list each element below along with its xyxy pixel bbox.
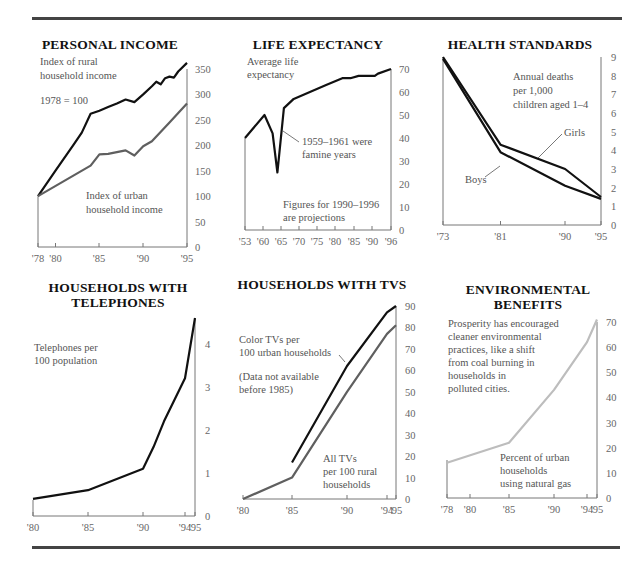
y-tick-label: 0 xyxy=(399,225,404,236)
y-tick-label: 40 xyxy=(606,392,617,403)
chart-annotation: households xyxy=(500,465,547,476)
y-tick-label: 300 xyxy=(195,89,211,100)
y-tick-label: 60 xyxy=(606,342,617,353)
households-with-telephones-title: HOUSEHOLDS WITHTELEPHONES xyxy=(49,280,188,310)
chart-annotation: Annual deaths xyxy=(513,71,573,82)
y-tick-label: 10 xyxy=(399,202,410,213)
health-standards-chart: HEALTH STANDARDS'73'81'90'950123456789An… xyxy=(437,37,617,242)
y-tick-label: 3 xyxy=(205,382,210,393)
x-tick-label: '73 xyxy=(437,231,449,242)
chart-annotation: practices, like a shift xyxy=(448,344,535,355)
chart-annotation: Percent of urban xyxy=(500,452,570,463)
y-tick-label: 90 xyxy=(405,301,416,312)
chart-annotation: Figures for 1990–1996 xyxy=(283,199,379,210)
y-tick-label: 6 xyxy=(611,108,616,119)
personal-income-chart: PERSONAL INCOME'78'80'85'90'950501001502… xyxy=(32,37,211,264)
y-tick-label: 70 xyxy=(399,64,410,75)
personal-income-title: PERSONAL INCOME xyxy=(42,37,178,52)
x-tick-label: '78 xyxy=(441,504,453,515)
chart-annotation: Index of rural xyxy=(40,56,98,67)
chart-annotation: are projections xyxy=(283,212,345,223)
x-tick-label: '80 xyxy=(464,504,476,515)
y-tick-label: 1 xyxy=(611,201,616,212)
y-tick-label: 40 xyxy=(405,408,416,419)
leader-line xyxy=(339,355,345,362)
chart-annotation: Girls xyxy=(564,127,585,138)
x-tick-label: '80 xyxy=(237,505,249,516)
chart-annotation: polluted cities. xyxy=(448,383,510,394)
chart-annotation: Color TVs per xyxy=(239,334,300,345)
chart-annotation: 1959–1961 were xyxy=(302,136,373,147)
x-tick-label: '70 xyxy=(293,236,305,247)
life-expectancy-chart: LIFE EXPECTANCY'53'60'65'70'75'80'85'90'… xyxy=(239,37,410,247)
chart-annotation: before 1985) xyxy=(239,384,293,396)
leader-line xyxy=(283,131,299,142)
y-tick-label: 50 xyxy=(606,367,617,378)
life-expectancy-title: LIFE EXPECTANCY xyxy=(253,37,384,52)
y-tick-label: 9 xyxy=(611,52,616,63)
chart-annotation: expectancy xyxy=(247,69,295,80)
chart-annotation: from coal burning in xyxy=(448,357,535,368)
x-tick-label: '95 xyxy=(189,522,201,533)
x-tick-label: '80 xyxy=(329,236,341,247)
x-tick-label: '75 xyxy=(311,236,323,247)
x-tick-label: '90 xyxy=(137,522,149,533)
leader-line xyxy=(485,166,500,177)
y-tick-label: 40 xyxy=(399,133,410,144)
x-tick-label: '85 xyxy=(93,253,105,264)
y-tick-label: 60 xyxy=(405,365,416,376)
y-tick-label: 10 xyxy=(405,473,416,484)
y-tick-label: 70 xyxy=(606,317,617,328)
x-tick-label: '95 xyxy=(181,253,193,264)
chart-annotation: Boys xyxy=(465,174,487,185)
x-tick-label: '95 xyxy=(595,231,607,242)
chart-annotation: household income xyxy=(86,204,163,215)
chart-annotation: households xyxy=(323,479,370,490)
y-tick-label: 2 xyxy=(611,183,616,194)
y-tick-label: 50 xyxy=(399,110,410,121)
y-tick-label: 20 xyxy=(405,451,416,462)
y-tick-label: 30 xyxy=(606,418,617,429)
x-tick-label: '85 xyxy=(286,505,298,516)
chart-annotation: household income xyxy=(40,70,117,81)
y-tick-label: 30 xyxy=(399,156,410,167)
chart-annotation: Prosperity has encouraged xyxy=(448,318,560,329)
households-with-tvs-chart: HOUSEHOLDS WITH TVS'80'85'90'94'95010203… xyxy=(237,277,416,516)
chart-annotation: 1978 = 100 xyxy=(40,95,88,106)
x-tick-label: '90 xyxy=(341,505,353,516)
x-tick-label: '95 xyxy=(591,504,603,515)
chart-annotation: All TVs xyxy=(323,453,357,464)
y-tick-label: 4 xyxy=(205,339,211,350)
personal-income-series-1 xyxy=(38,104,187,197)
households-with-tvs-title: HOUSEHOLDS WITH TVS xyxy=(237,277,406,292)
y-tick-label: 0 xyxy=(195,242,200,253)
y-tick-label: 1 xyxy=(205,468,210,479)
y-tick-label: 250 xyxy=(195,115,211,126)
x-tick-label: '80 xyxy=(49,253,61,264)
y-tick-label: 60 xyxy=(399,87,410,98)
y-tick-label: 4 xyxy=(611,145,617,156)
x-tick-label: '90 xyxy=(366,236,378,247)
x-tick-label: '85 xyxy=(503,504,515,515)
y-tick-label: 30 xyxy=(405,430,416,441)
chart-annotation: children aged 1–4 xyxy=(513,99,589,110)
y-tick-label: 0 xyxy=(611,220,616,231)
y-tick-label: 150 xyxy=(195,166,211,177)
y-tick-label: 20 xyxy=(606,443,617,454)
y-tick-label: 10 xyxy=(606,468,617,479)
x-tick-label: '90 xyxy=(559,231,571,242)
x-tick-label: '85 xyxy=(348,236,360,247)
y-tick-label: 0 xyxy=(405,494,410,505)
chart-annotation: using natural gas xyxy=(500,478,571,489)
y-tick-label: 350 xyxy=(195,64,211,75)
y-tick-label: 200 xyxy=(195,140,211,151)
leader-line xyxy=(538,134,562,158)
y-tick-label: 20 xyxy=(399,179,410,190)
y-tick-label: 2 xyxy=(205,425,210,436)
y-tick-label: 100 xyxy=(195,191,211,202)
x-tick-label: '78 xyxy=(32,253,44,264)
health-standards-title: HEALTH STANDARDS xyxy=(448,37,593,52)
y-tick-label: 0 xyxy=(205,511,210,522)
x-tick-label: '60 xyxy=(257,236,269,247)
chart-annotation: Average life xyxy=(247,56,299,67)
